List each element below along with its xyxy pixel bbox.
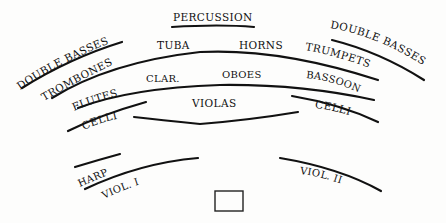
violas-line [134, 112, 298, 124]
percussion-line [172, 26, 254, 28]
label-horns: HORNS [239, 39, 283, 51]
label-tuba: TUBA [157, 39, 190, 51]
label-percussion: PERCUSSION [173, 11, 253, 23]
label-oboes: OBOES [222, 69, 262, 80]
label-celli-right: CELLI [315, 98, 353, 117]
orchestra-seating-diagram: PERCUSSION TUBA HORNS CLAR. OBOES VIOLAS… [0, 0, 446, 223]
conductor-podium [215, 191, 243, 211]
harp-line [75, 154, 120, 167]
label-flutes: FLUTES [70, 86, 119, 113]
label-celli-left: CELLI [80, 109, 119, 132]
label-violas: VIOLAS [191, 97, 237, 109]
label-trumpets: TRUMPETS [305, 40, 373, 70]
label-clarinets: CLAR. [146, 73, 180, 84]
